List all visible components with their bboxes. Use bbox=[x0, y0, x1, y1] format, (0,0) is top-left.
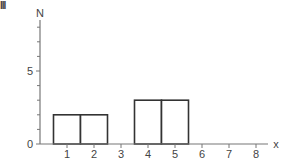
x-tick-label: 8 bbox=[253, 148, 259, 160]
histogram-bar bbox=[135, 100, 162, 144]
x-tick-label: 3 bbox=[118, 148, 124, 160]
x-axis-label: x bbox=[273, 138, 279, 150]
x-tick-label: 7 bbox=[226, 148, 232, 160]
histogram-bar bbox=[81, 115, 108, 144]
y-axis-label: N bbox=[36, 7, 44, 19]
x-tick-label: 2 bbox=[91, 148, 97, 160]
x-tick-label: 4 bbox=[145, 148, 151, 160]
y-tick-label: 5 bbox=[27, 65, 33, 77]
histogram-chart: 1234567805xN bbox=[0, 0, 283, 160]
x-tick-label: 6 bbox=[199, 148, 205, 160]
histogram-bar bbox=[162, 100, 189, 144]
y-tick-label: 0 bbox=[27, 138, 33, 150]
x-tick-label: 5 bbox=[172, 148, 178, 160]
x-tick-label: 1 bbox=[64, 148, 70, 160]
histogram-bar bbox=[54, 115, 81, 144]
